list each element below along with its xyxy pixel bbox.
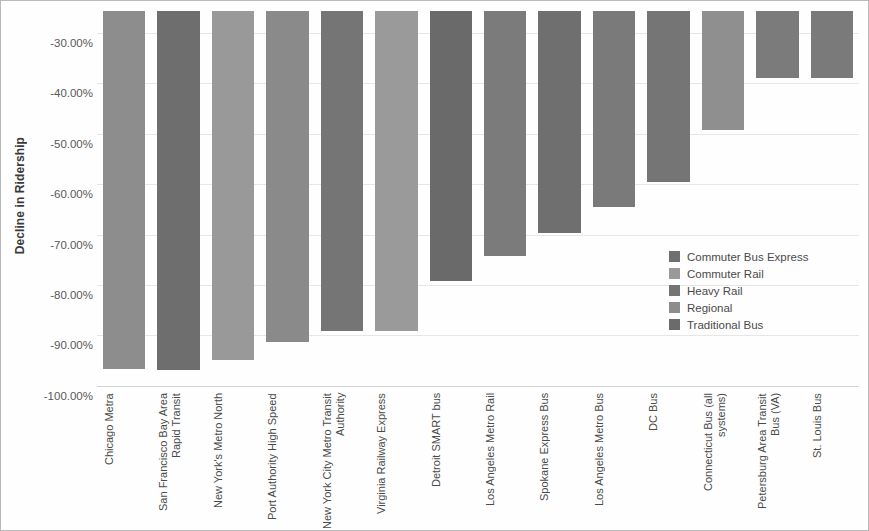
x-axis-label-text: DC Bus [647, 393, 660, 529]
x-axis-label: Los Angeles Metro Rail [484, 393, 526, 529]
x-axis-label: Petersburg Area Transit Bus (VA) [756, 393, 798, 529]
bar[interactable] [103, 11, 145, 369]
legend-swatch-icon [669, 268, 680, 279]
legend-swatch-icon [669, 319, 680, 330]
x-axis-label-text: St. Louis Bus [811, 393, 824, 529]
bar[interactable] [647, 11, 689, 182]
y-tick-label: -90.00% [7, 339, 93, 351]
x-axis-label-text: Los Angeles Metro Bus [593, 393, 606, 529]
x-axis-category-labels: Chicago MetraSan Francisco Bay Area Rapi… [97, 389, 859, 529]
legend-swatch-icon [669, 285, 680, 296]
x-axis-label-text: San Francisco Bay Area Rapid Transit [157, 393, 183, 529]
x-axis-label-text: Virginia Railway Express [375, 393, 388, 529]
y-tick-label: -50.00% [7, 138, 93, 150]
legend-item[interactable]: Traditional Bus [669, 316, 865, 333]
bar[interactable] [811, 11, 853, 78]
y-tick-label: -40.00% [7, 87, 93, 99]
x-axis-label: Chicago Metra [103, 393, 145, 529]
x-axis-label-text: Chicago Metra [103, 393, 116, 529]
y-tick-label: -100.00% [7, 390, 93, 402]
bar[interactable] [593, 11, 635, 207]
x-axis-label: Port Authority High Speed [266, 393, 308, 529]
legend-item[interactable]: Regional [669, 299, 865, 316]
legend-item[interactable]: Heavy Rail [669, 282, 865, 299]
x-axis-label: Los Angeles Metro Bus [593, 393, 635, 529]
bar[interactable] [538, 11, 580, 233]
y-tick-label: -60.00% [7, 188, 93, 200]
bar[interactable] [375, 11, 417, 331]
x-axis-label: New York's Metro North [212, 393, 254, 529]
bar[interactable] [266, 11, 308, 342]
x-axis-label: St. Louis Bus [811, 393, 853, 529]
legend-item[interactable]: Commuter Bus Express [669, 248, 865, 265]
legend-swatch-icon [669, 251, 680, 262]
x-axis-label: DC Bus [647, 393, 689, 529]
x-axis-label-text: New York's Metro North [212, 393, 225, 529]
x-axis-label-text: Detroit SMART bus [430, 393, 443, 529]
legend-swatch-icon [669, 302, 680, 313]
gridline [97, 386, 859, 387]
x-axis-label-text: Petersburg Area Transit Bus (VA) [756, 393, 782, 529]
chart-legend: Commuter Bus ExpressCommuter RailHeavy R… [669, 248, 865, 333]
x-axis-label: Spokane Express Bus [538, 393, 580, 529]
x-axis-label-text: New York City Metro Transit Authority [321, 393, 347, 529]
x-axis-label-text: Spokane Express Bus [538, 393, 551, 529]
legend-label: Commuter Rail [687, 268, 764, 280]
bar[interactable] [321, 11, 363, 331]
x-axis-label: Connecticut Bus (all systems) [702, 393, 744, 529]
x-axis-label: San Francisco Bay Area Rapid Transit [157, 393, 199, 529]
bar[interactable] [212, 11, 254, 360]
bar[interactable] [702, 11, 744, 130]
legend-item[interactable]: Commuter Rail [669, 265, 865, 282]
bar[interactable] [484, 11, 526, 256]
legend-label: Commuter Bus Express [687, 251, 808, 263]
bar[interactable] [756, 11, 798, 78]
bar[interactable] [157, 11, 199, 370]
legend-label: Traditional Bus [687, 319, 763, 331]
y-tick-label: -80.00% [7, 289, 93, 301]
x-axis-label-text: Port Authority High Speed [266, 393, 279, 529]
chart-figure: Decline in Ridership -30.00%-40.00%-50.0… [0, 0, 869, 531]
y-tick-label: -30.00% [7, 37, 93, 49]
y-axis-tick-labels: -30.00%-40.00%-50.00%-60.00%-70.00%-80.0… [1, 11, 93, 386]
y-tick-label: -70.00% [7, 239, 93, 251]
x-axis-label-text: Los Angeles Metro Rail [484, 393, 497, 529]
x-axis-label: New York City Metro Transit Authority [321, 393, 363, 529]
legend-label: Regional [687, 302, 732, 314]
x-axis-label: Detroit SMART bus [430, 393, 472, 529]
x-axis-label: Virginia Railway Express [375, 393, 417, 529]
bar[interactable] [430, 11, 472, 281]
legend-label: Heavy Rail [687, 285, 743, 297]
x-axis-label-text: Connecticut Bus (all systems) [702, 393, 728, 529]
